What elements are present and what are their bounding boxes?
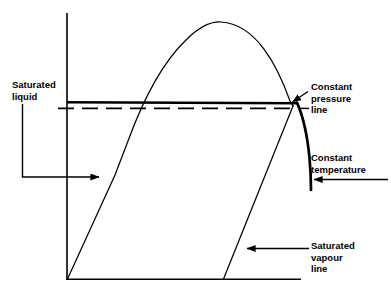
constant-pressure-label: Constant pressure line bbox=[311, 81, 352, 116]
phase-diagram-figure: Saturated liquid Constant pressure line … bbox=[0, 0, 391, 298]
constant-pressure-line bbox=[67, 102, 298, 103]
saturated-liquid-leader bbox=[23, 104, 100, 177]
constant-temperature-curve bbox=[297, 103, 311, 190]
saturated-liquid-label: Saturated liquid bbox=[12, 79, 56, 102]
saturated-vapour-label: Saturated vapour line bbox=[311, 240, 355, 275]
saturated-vapour-line bbox=[224, 106, 294, 280]
constant-pressure-leader bbox=[293, 92, 309, 103]
constant-temperature-label: Constant temperature bbox=[311, 152, 366, 175]
saturated-liquid-line bbox=[68, 22, 294, 279]
